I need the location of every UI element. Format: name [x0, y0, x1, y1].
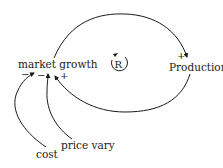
polarity-plus-production: + — [177, 50, 185, 61]
edge-production-to-market-growth — [55, 74, 190, 112]
node-price-vary: price vary — [61, 139, 115, 151]
edge-cost-to-market-growth — [15, 73, 46, 147]
polarity-plus-market-growth: + — [60, 70, 68, 81]
edge-market-growth-to-production — [54, 14, 187, 58]
node-production: Production — [169, 61, 223, 73]
reinforcing-loop-indicator: R — [111, 53, 127, 71]
causal-loop-diagram: + + − − R market growth Production cost … — [0, 0, 223, 168]
edge-price-vary-to-market-growth — [47, 74, 72, 139]
loop-arrowhead-icon — [113, 53, 118, 57]
node-cost: cost — [36, 148, 59, 160]
polarity-minus-cost: − — [21, 69, 29, 80]
node-market-growth: market growth — [18, 58, 98, 70]
loop-label: R — [115, 59, 123, 70]
polarity-minus-price-vary: − — [37, 70, 45, 81]
